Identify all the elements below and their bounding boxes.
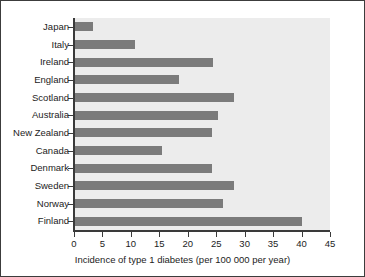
y-axis-tick-label: Finland: [7, 216, 69, 226]
bar: [74, 181, 234, 190]
y-axis-tick-label: Australia: [7, 110, 69, 120]
y-axis-tick-label: Scotland: [7, 93, 69, 103]
x-axis-tick-label: 5: [87, 238, 117, 249]
bar: [74, 128, 212, 137]
x-axis-tick: [245, 232, 246, 237]
y-axis-tick-label: New Zealand: [7, 128, 69, 138]
x-axis-tick: [188, 232, 189, 237]
x-axis-tick: [330, 232, 331, 237]
x-axis-tick-label: 35: [258, 238, 288, 249]
bar: [74, 164, 212, 173]
bar: [74, 93, 234, 102]
x-axis-tick-label: 20: [173, 238, 203, 249]
y-axis-tick-label: Sweden: [7, 181, 69, 191]
bar: [74, 58, 213, 67]
x-axis-tick-label: 25: [201, 238, 231, 249]
x-axis-tick: [216, 232, 217, 237]
figure-canvas: JapanItalyIrelandEnglandScotlandAustrali…: [5, 5, 360, 272]
x-axis-spine: [73, 230, 330, 232]
bar: [74, 22, 93, 31]
y-axis-tick-label: Denmark: [7, 163, 69, 173]
bar: [74, 217, 302, 226]
y-axis-tick-label: Ireland: [7, 57, 69, 67]
bar: [74, 75, 179, 84]
y-axis-tick-label: Norway: [7, 199, 69, 209]
y-axis-tick-label: Japan: [7, 22, 69, 32]
x-axis-title: Incidence of type 1 diabetes (per 100 00…: [5, 254, 360, 265]
x-axis-tick: [74, 232, 75, 237]
y-axis-tick-label: Italy: [7, 40, 69, 50]
x-axis-tick: [302, 232, 303, 237]
x-axis-tick-label: 0: [59, 238, 89, 249]
x-axis-tick-label: 10: [116, 238, 146, 249]
x-axis-tick: [159, 232, 160, 237]
x-axis-tick: [102, 232, 103, 237]
bar: [74, 111, 218, 120]
y-axis-tick-label: England: [7, 75, 69, 85]
y-axis-tick-labels: JapanItalyIrelandEnglandScotlandAustrali…: [5, 5, 69, 272]
bar: [74, 40, 135, 49]
bar: [74, 146, 162, 155]
x-axis-tick: [131, 232, 132, 237]
figure-frame: JapanItalyIrelandEnglandScotlandAustrali…: [0, 0, 365, 277]
x-axis-tick-label: 45: [315, 238, 345, 249]
bar: [74, 199, 223, 208]
y-axis-tick-label: Canada: [7, 146, 69, 156]
x-axis-tick-label: 30: [230, 238, 260, 249]
x-axis-tick: [273, 232, 274, 237]
y-axis-spine: [73, 18, 75, 231]
plot-area: [74, 18, 330, 230]
x-axis-tick-label: 15: [144, 238, 174, 249]
x-axis-tick-label: 40: [287, 238, 317, 249]
